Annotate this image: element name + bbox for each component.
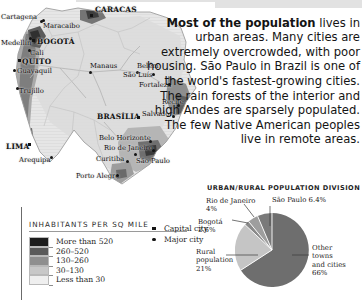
map-dot-brasilia <box>137 116 140 119</box>
legend-label-30-130: 30–130 <box>56 266 113 276</box>
pie-label-rio-de-janeiro: Rio de Janeiro 4% <box>206 197 255 214</box>
pie-label-rural-l1: Rural <box>196 248 215 256</box>
pie-label-other-l2: towns <box>312 252 333 260</box>
pie-label-rural-population: Rural population 21% <box>196 248 233 273</box>
pie-label-bogota: Bogotá 2.6% <box>198 218 223 235</box>
map-label-manaus: Manaus <box>90 63 117 70</box>
legend-swatch-more-than-520 <box>29 237 49 247</box>
map-label-medellin: Medellín <box>1 40 31 47</box>
square-marker-icon <box>148 227 160 231</box>
pie-label-other-l3: and cities <box>312 261 346 269</box>
map-label-lima: LIMA <box>6 143 29 150</box>
map-label-belo-horizonte: Belo Horizonte <box>99 135 151 142</box>
map-label-cartagena: Cartagena <box>1 14 37 21</box>
pie-label-bogota-value: 2.6% <box>198 226 216 234</box>
legend-label-column: More than 520 260–520 130–260 30–130 Les… <box>56 237 113 285</box>
legend-label-less-than-30: Less than 30 <box>56 275 113 285</box>
legend-swatch-30-130 <box>29 266 49 276</box>
legend-swatch-260-520 <box>29 247 49 257</box>
circle-marker-icon <box>148 238 160 242</box>
map-dot-quito <box>18 59 21 62</box>
map-dot-lima <box>28 143 31 146</box>
pie-label-other-l1: Other <box>312 244 332 252</box>
map-dot-bogota <box>32 39 35 42</box>
legend-label-more-than-520: More than 520 <box>56 237 113 247</box>
pie-label-sao-paulo: São Paulo 6.4% <box>272 196 326 204</box>
legend-tick-4 <box>49 275 53 276</box>
map-label-cali: Cali <box>30 50 44 57</box>
map-label-quito: QUITO <box>22 58 51 65</box>
pie-slices <box>235 213 309 287</box>
pie-label-rural-l2: population <box>196 256 233 264</box>
pie-label-bogota-name: Bogotá <box>198 218 223 226</box>
map-dot-caracas <box>90 14 93 17</box>
pie-label-rio-value: 4% <box>206 205 217 213</box>
map-label-maracaibo: Maracaibo <box>43 23 80 30</box>
legend-swatch-less-than-30 <box>29 275 49 285</box>
map-label-arequipa: Arequipa <box>19 157 51 164</box>
pie-label-other-value: 66% <box>312 269 327 277</box>
legend-label-130-260: 130–260 <box>56 256 113 266</box>
legend-tick-3 <box>49 266 53 267</box>
body-paragraph-lead: Most of the population <box>167 16 316 30</box>
body-paragraph: Most of the population lives in urban ar… <box>146 16 360 147</box>
legend-tick-1 <box>49 247 53 248</box>
map-label-brasilia: BRASÍLIA <box>97 113 140 120</box>
legend-swatch-130-260 <box>29 256 49 266</box>
legend-swatch-column <box>29 237 49 285</box>
pie-label-rural-value: 21% <box>196 265 211 273</box>
map-label-caracas: CARACAS <box>95 6 137 13</box>
map-label-curitiba: Curitiba <box>96 156 124 163</box>
map-label-trujillo: Trujillo <box>19 88 44 95</box>
map-legend: INHABITANTS PER SQ MILE More than 520 26… <box>29 220 189 285</box>
map-label-guayaquil: Guayaquil <box>17 68 52 75</box>
legend-tick-2 <box>49 256 53 257</box>
body-paragraph-rest: lives in urban areas. Many cities are ex… <box>147 16 360 147</box>
urban-rural-pie-chart: URBAN/RURAL POPULATION DIVISION <box>196 184 362 300</box>
pie-label-other-towns-and-cities: Other towns and cities 66% <box>312 244 346 278</box>
map-label-bogota: BOGOTÁ <box>37 38 75 45</box>
page-root: CARACAS BOGOTÁ QUITO BRASÍLIA LIMA Carta… <box>0 0 362 300</box>
legend-tick-5 <box>49 285 53 286</box>
legend-label-260-520: 260–520 <box>56 247 113 257</box>
map-label-porto-alegre: Porto Alegre <box>76 173 119 180</box>
map-label-sao-paulo: São Paulo <box>136 158 170 165</box>
pie-label-rio-name: Rio de Janeiro <box>206 197 255 205</box>
